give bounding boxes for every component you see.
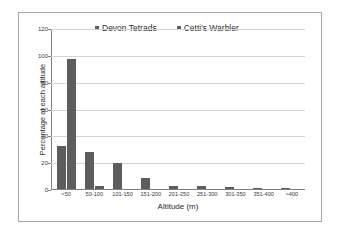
bar[interactable] xyxy=(197,186,206,189)
x-axis-ticks: <5050-100101-150151-200201-250251-300301… xyxy=(52,191,306,197)
bar-group xyxy=(221,29,249,189)
bar[interactable] xyxy=(281,188,290,189)
chart-figure: Percentage at each altitude Devon Tetrad… xyxy=(18,12,322,222)
bar-group xyxy=(277,29,305,189)
x-axis-line xyxy=(51,189,305,190)
x-tick-label: 251-300 xyxy=(193,191,221,197)
bar-group xyxy=(249,29,277,189)
bar[interactable] xyxy=(57,146,66,189)
y-tick-mark xyxy=(48,136,51,137)
bar[interactable] xyxy=(169,186,178,189)
bar-group xyxy=(164,29,192,189)
y-tick-mark xyxy=(48,190,51,191)
plot-area: 020406080100120 xyxy=(51,29,305,190)
x-tick-label: 201-250 xyxy=(165,191,193,197)
y-tick-label: 40 xyxy=(41,133,48,139)
x-tick-label: 351-400 xyxy=(250,191,278,197)
y-tick-mark xyxy=(48,56,51,57)
bar[interactable] xyxy=(141,178,150,189)
bar-group xyxy=(52,29,80,189)
bar-group xyxy=(108,29,136,189)
bar-groups xyxy=(52,29,305,189)
y-tick-label: 120 xyxy=(38,26,48,32)
y-tick-label: 80 xyxy=(41,80,48,86)
bar[interactable] xyxy=(225,187,234,189)
x-tick-label: 50-100 xyxy=(80,191,108,197)
bar[interactable] xyxy=(67,59,76,189)
bar[interactable] xyxy=(85,152,94,189)
y-tick-label: 100 xyxy=(38,53,48,59)
bar[interactable] xyxy=(113,163,122,189)
bar[interactable] xyxy=(253,188,262,189)
y-tick-label: 60 xyxy=(41,107,48,113)
y-tick-mark xyxy=(48,29,51,30)
x-tick-label: <50 xyxy=(52,191,80,197)
y-tick-mark xyxy=(48,110,51,111)
bar[interactable] xyxy=(95,186,104,189)
x-tick-label: >400 xyxy=(278,191,306,197)
y-tick-mark xyxy=(48,83,51,84)
bar-group xyxy=(136,29,164,189)
x-axis-title: Altitude (m) xyxy=(51,202,305,211)
bar-group xyxy=(193,29,221,189)
y-tick-mark xyxy=(48,163,51,164)
x-tick-label: 301-350 xyxy=(221,191,249,197)
bar-group xyxy=(80,29,108,189)
x-tick-label: 101-150 xyxy=(108,191,136,197)
x-tick-label: 151-200 xyxy=(137,191,165,197)
y-tick-label: 20 xyxy=(41,160,48,166)
